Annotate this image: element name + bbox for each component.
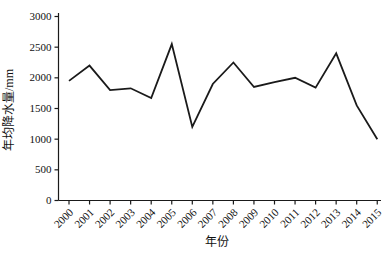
x-axis-label: 年份 [205, 235, 229, 249]
x-tick-label: 2014 [339, 206, 363, 230]
x-axis-ticks: 2000200120022003200420052006200720082009… [51, 201, 384, 230]
x-tick-label: 2002 [92, 206, 116, 230]
x-tick-label: 2010 [257, 206, 281, 230]
y-tick-label: 3000 [30, 10, 53, 22]
chart-figure: 050010001500200025003000 200020012002200… [0, 0, 390, 256]
precipitation-polyline [69, 44, 377, 139]
y-tick-label: 0 [46, 194, 52, 206]
x-tick-label: 2012 [298, 206, 322, 230]
precipitation-line-chart: 050010001500200025003000 200020012002200… [0, 0, 390, 256]
y-tick-label: 1000 [30, 133, 53, 145]
x-tick-label: 2001 [72, 206, 96, 230]
axes [59, 13, 382, 201]
x-tick-label: 2015 [360, 206, 384, 230]
x-tick-label: 2004 [134, 206, 158, 230]
x-tick-label: 2013 [319, 206, 343, 230]
x-tick-label: 2007 [195, 206, 219, 230]
y-tick-label: 1500 [30, 102, 53, 114]
y-tick-label: 2500 [30, 41, 53, 53]
y-axis-ticks: 050010001500200025003000 [30, 10, 59, 206]
x-tick-label: 2009 [236, 206, 260, 230]
x-tick-label: 2003 [113, 206, 137, 230]
x-tick-label: 2006 [175, 206, 199, 230]
x-tick-label: 2008 [216, 206, 240, 230]
x-tick-label: 2005 [154, 206, 178, 230]
x-tick-label: 2000 [51, 206, 75, 230]
y-tick-label: 2000 [30, 71, 53, 83]
x-tick-label: 2011 [278, 206, 302, 230]
y-axis-label: 年均降水量/mm [2, 68, 16, 151]
data-series [69, 44, 377, 139]
y-tick-label: 500 [35, 163, 52, 175]
